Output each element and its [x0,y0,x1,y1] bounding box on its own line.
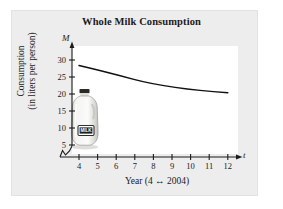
y-axis-label-line1: Consumption [16,32,28,109]
x-axis-arrow [236,155,243,160]
x-tick-label-10: 10 [182,162,200,171]
y-tick-label-25: 25 [46,73,66,82]
x-tick-label-11: 11 [200,162,218,171]
y-tick-label-30: 30 [46,56,66,65]
y-tick-label-10: 10 [46,124,66,133]
y-axis-variable: M [62,33,70,43]
milk-consumption-curve [79,66,228,93]
x-tick-label-8: 8 [144,162,162,171]
y-axis-arrow [70,42,75,49]
x-axis-label: Year (4 ↔ 2004) [62,176,252,186]
x-tick-label-9: 9 [163,162,181,171]
x-tick-label-12: 12 [219,162,237,171]
y-axis-label-line2: (in liters per person) [27,32,39,109]
x-axis-variable: t [243,150,246,160]
figure-container: Whole Milk Consumption MILK [0,0,283,209]
y-tick-label-15: 15 [46,107,66,116]
x-tick-label-7: 7 [126,162,144,171]
x-tick-label-4: 4 [70,162,88,171]
y-tick-label-5: 5 [46,141,66,150]
x-tick-label-6: 6 [107,162,125,171]
y-axis-label: Consumption (in liters per person) [13,17,41,125]
x-tick-label-5: 5 [89,162,107,171]
y-tick-label-20: 20 [46,90,66,99]
